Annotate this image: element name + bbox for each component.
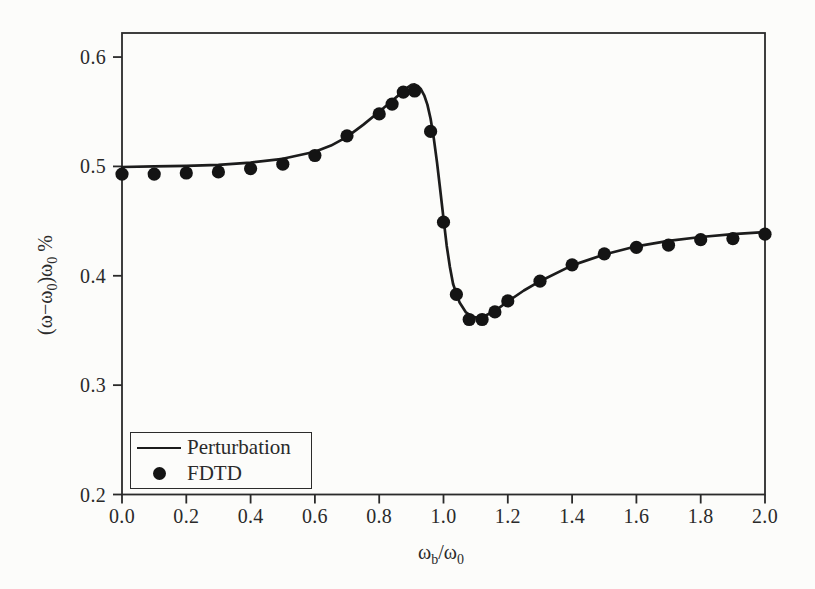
fdtd-data-point — [662, 239, 675, 252]
fdtd-data-point — [533, 275, 546, 288]
plot-frame — [122, 33, 765, 495]
fdtd-data-point — [758, 228, 771, 241]
x-tick-label: 0.6 — [289, 503, 341, 529]
fdtd-data-point — [598, 247, 611, 260]
fdtd-data-point — [424, 125, 437, 138]
x-tick-label: 1.8 — [675, 503, 727, 529]
legend: Perturbation FDTD — [130, 432, 312, 489]
fdtd-data-point — [463, 313, 476, 326]
fdtd-data-point — [397, 86, 410, 99]
line-swatch-icon — [137, 447, 181, 449]
fdtd-data-point — [450, 288, 463, 301]
x-tick-label: 1.4 — [546, 503, 598, 529]
figure: 0.00.20.40.60.81.01.21.41.61.82.00.20.30… — [0, 0, 815, 589]
fdtd-data-point — [476, 313, 489, 326]
fdtd-data-point — [566, 258, 579, 271]
fdtd-data-point — [501, 294, 514, 307]
fdtd-data-point — [244, 162, 257, 175]
fdtd-data-point — [726, 232, 739, 245]
x-tick-label: 1.6 — [610, 503, 662, 529]
legend-label-fdtd: FDTD — [187, 461, 242, 486]
y-tick-label: 0.3 — [50, 372, 106, 398]
x-axis-label: ωb/ω0 — [381, 539, 501, 565]
fdtd-data-point — [373, 107, 386, 120]
x-tick-label: 0.4 — [225, 503, 277, 529]
fdtd-data-point — [408, 84, 421, 97]
fdtd-data-point — [115, 168, 128, 181]
x-tick-label: 2.0 — [739, 503, 791, 529]
fdtd-data-point — [180, 166, 193, 179]
fdtd-data-point — [386, 98, 399, 111]
x-tick-label: 0.2 — [160, 503, 212, 529]
plot-canvas — [0, 0, 815, 589]
dot-swatch-icon — [153, 467, 166, 480]
fdtd-data-point — [308, 149, 321, 162]
fdtd-data-point — [148, 168, 161, 181]
fdtd-data-point — [694, 233, 707, 246]
x-tick-label: 1.2 — [482, 503, 534, 529]
y-axis-label-text: (ω−ω — [34, 291, 56, 335]
fdtd-data-point — [488, 305, 501, 318]
legend-item-perturbation: Perturbation — [131, 435, 311, 460]
y-axis-label: (ω−ω0)ω0 % — [32, 200, 58, 370]
y-tick-label: 0.2 — [50, 482, 106, 508]
fdtd-data-point — [276, 158, 289, 171]
y-tick-label: 0.5 — [50, 153, 106, 179]
fdtd-data-point — [212, 165, 225, 178]
x-tick-label: 0.8 — [353, 503, 405, 529]
fdtd-data-point — [437, 216, 450, 229]
perturbation-curve — [122, 84, 765, 318]
fdtd-data-point — [340, 129, 353, 142]
x-tick-label: 1.0 — [418, 503, 470, 529]
y-tick-label: 0.6 — [50, 44, 106, 70]
legend-item-fdtd: FDTD — [131, 461, 311, 486]
fdtd-data-point — [630, 241, 643, 254]
legend-label-perturbation: Perturbation — [187, 435, 291, 460]
x-axis-label-text: ω — [418, 541, 431, 563]
